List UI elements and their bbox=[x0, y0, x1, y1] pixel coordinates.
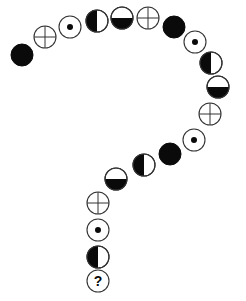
question-mark-circle-icon: ? bbox=[87, 270, 109, 292]
svg-text:?: ? bbox=[94, 273, 103, 289]
crosshair-circle-icon bbox=[137, 7, 159, 29]
crosshair-circle-icon bbox=[87, 192, 109, 214]
dot-circle-icon bbox=[184, 31, 206, 53]
dot-circle-icon bbox=[59, 16, 81, 38]
half-bottom-circle-icon bbox=[105, 168, 127, 190]
solid-circle-icon bbox=[163, 16, 185, 38]
half-left-circle-icon bbox=[133, 154, 155, 176]
question-mark-puzzle: ? bbox=[0, 0, 246, 301]
dot-circle-icon bbox=[183, 129, 205, 151]
solid-circle-icon bbox=[11, 44, 33, 66]
half-bottom-circle-icon bbox=[207, 76, 229, 98]
dot-circle-icon bbox=[87, 219, 109, 241]
crosshair-circle-icon bbox=[34, 26, 56, 48]
half-left-circle-icon bbox=[86, 10, 108, 32]
half-left-circle-icon bbox=[87, 246, 109, 268]
solid-circle-icon bbox=[159, 143, 181, 165]
half-left-circle-icon bbox=[200, 52, 222, 74]
half-bottom-circle-icon bbox=[111, 7, 133, 29]
crosshair-circle-icon bbox=[199, 103, 221, 125]
